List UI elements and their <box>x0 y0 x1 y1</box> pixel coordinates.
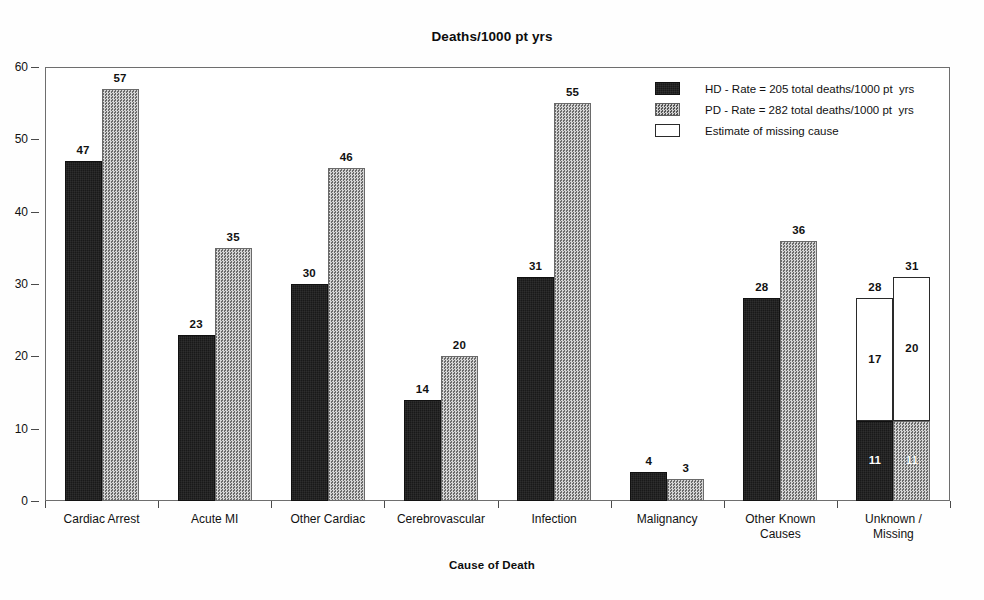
y-tick-label: 10 <box>15 422 28 436</box>
y-tick-mark <box>31 284 39 285</box>
x-category-label: Other Known Causes <box>745 512 815 542</box>
y-tick-mark <box>31 212 39 213</box>
y-tick-label: 50 <box>15 132 28 146</box>
x-tick-mark <box>498 501 499 508</box>
x-tick-mark <box>158 501 159 508</box>
legend-item-hd: HD - Rate = 205 total deaths/1000 pt yrs <box>655 78 914 99</box>
value-label-hd-1: 23 <box>190 318 203 330</box>
bar-pd-1 <box>215 248 252 501</box>
value-label-total-pd: 31 <box>905 260 918 272</box>
x-category-label: Unknown / Missing <box>848 512 939 542</box>
bar-pd-4 <box>554 103 591 501</box>
x-tick-mark <box>950 501 951 508</box>
x-tick-mark <box>271 501 272 508</box>
value-label-hd-3: 14 <box>416 383 429 395</box>
bar-hd-5 <box>630 472 667 501</box>
value-label-hd-2: 30 <box>303 267 316 279</box>
value-label-pd-5: 3 <box>682 462 689 474</box>
x-category-label: Cardiac Arrest <box>64 512 140 527</box>
bar-hd-0 <box>65 161 102 501</box>
value-label-pd-3: 20 <box>453 339 466 351</box>
x-category-label: Malignancy <box>637 512 698 527</box>
legend-item-est: Estimate of missing cause <box>655 120 914 141</box>
value-label-pd-0: 57 <box>113 72 126 84</box>
y-tick-label: 40 <box>15 205 28 219</box>
bar-pd-0 <box>102 89 139 501</box>
bar-hd-2 <box>291 284 328 501</box>
legend-swatch-pd-icon <box>655 103 680 116</box>
value-label-pd-2: 46 <box>340 151 353 163</box>
legend-label: Estimate of missing cause <box>705 125 839 137</box>
y-tick-label: 60 <box>15 60 28 74</box>
bar-pd-5 <box>667 479 704 501</box>
y-tick-mark <box>31 356 39 357</box>
x-category-label: Other Cardiac <box>290 512 365 527</box>
bar-hd-6 <box>743 298 780 501</box>
bar-pd-3 <box>441 356 478 501</box>
x-tick-mark <box>611 501 612 508</box>
y-tick-label: 20 <box>15 349 28 363</box>
legend-swatch-est-icon <box>655 124 680 137</box>
bar-pd-6 <box>780 241 817 501</box>
value-label-hd-5: 4 <box>645 455 652 467</box>
bar-hd-1 <box>178 335 215 501</box>
value-label-pd-4: 55 <box>566 86 579 98</box>
chart-title: Deaths/1000 pt yrs <box>0 29 984 44</box>
x-category-label: Cerebrovascular <box>397 512 485 527</box>
value-label-hd-6: 28 <box>755 281 768 293</box>
x-tick-mark <box>45 501 46 508</box>
legend-label: PD - Rate = 282 total deaths/1000 pt yrs <box>705 104 914 116</box>
value-label-pd-1: 35 <box>227 231 240 243</box>
y-tick-mark <box>31 67 39 68</box>
y-axis: 6050403020100 <box>0 0 45 600</box>
y-tick-label: 30 <box>15 277 28 291</box>
x-category-label: Acute MI <box>191 512 238 527</box>
y-tick-mark <box>31 139 39 140</box>
legend-label: HD - Rate = 205 total deaths/1000 pt yrs <box>705 83 914 95</box>
chart-legend: HD - Rate = 205 total deaths/1000 pt yrs… <box>655 78 914 141</box>
value-label-pd-6: 36 <box>792 224 805 236</box>
value-label-total-hd: 28 <box>868 281 881 293</box>
y-tick-mark <box>31 429 39 430</box>
bar-hd-4 <box>517 277 554 501</box>
value-label-pd-7: 11 <box>906 454 919 466</box>
legend-item-pd: PD - Rate = 282 total deaths/1000 pt yrs <box>655 99 914 120</box>
x-tick-mark <box>837 501 838 508</box>
value-label-hd-7: 11 <box>869 454 882 466</box>
bar-pd-2 <box>328 168 365 501</box>
x-axis-title: Cause of Death <box>0 559 984 571</box>
value-label-estimate-hd: 17 <box>868 353 881 365</box>
value-label-hd-4: 31 <box>529 260 542 272</box>
value-label-estimate-pd: 20 <box>905 342 918 354</box>
x-tick-mark <box>384 501 385 508</box>
y-tick-label: 0 <box>21 494 28 508</box>
value-label-hd-0: 47 <box>76 144 89 156</box>
x-tick-mark <box>724 501 725 508</box>
x-category-label: Infection <box>531 512 576 527</box>
bar-hd-3 <box>404 400 441 501</box>
legend-swatch-hd-icon <box>655 82 680 95</box>
y-tick-mark <box>31 501 39 502</box>
